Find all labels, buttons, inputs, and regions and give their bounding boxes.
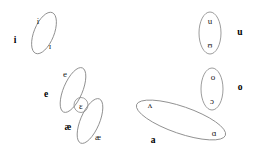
group-ellipse-o [201,68,223,110]
group-label-o: o [238,83,243,93]
group-ellipse-u [199,12,221,54]
group-label-a: a [151,136,156,146]
group-ellipse-i [26,9,61,57]
group-label-u: u [237,28,242,38]
group-ellipse-epsilon [74,98,88,113]
ellipse-layer [0,0,262,154]
vowel-diagram-canvas: i ɪ e ɛ æ u ʊ o ɔ ʌ ɑ i e æ u o a [0,0,262,154]
group-label-i: i [14,36,17,46]
group-ellipse-a [132,92,230,148]
group-label-ae: æ [65,123,72,133]
group-label-e: e [44,90,48,100]
